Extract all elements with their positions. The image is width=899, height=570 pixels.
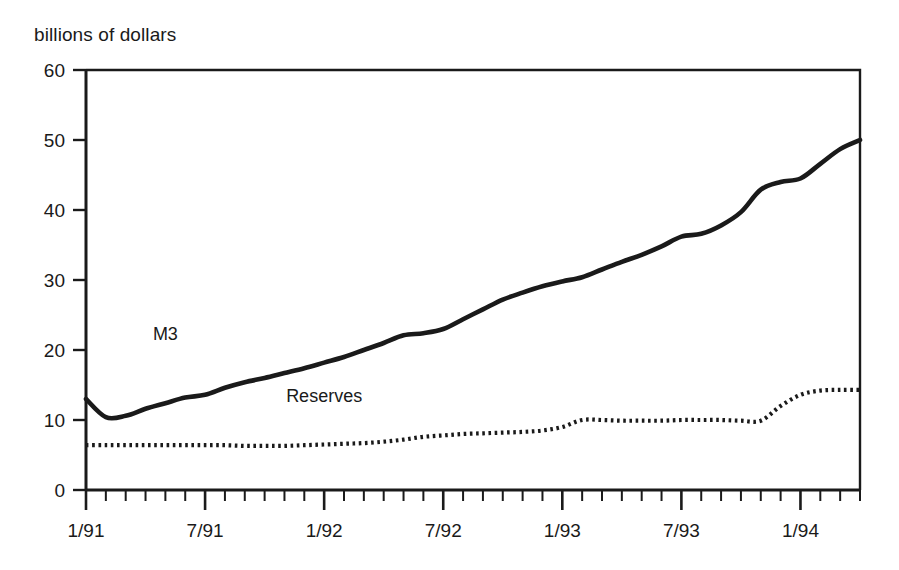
y-tick-label: 20 <box>44 340 65 361</box>
y-tick-label: 50 <box>44 130 65 151</box>
y-axis-ticks: 0102030405060 <box>44 60 86 501</box>
y-tick-label: 10 <box>44 410 65 431</box>
x-tick-label: 1/94 <box>782 520 819 541</box>
y-tick-label: 60 <box>44 60 65 81</box>
y-tick-label: 30 <box>44 270 65 291</box>
chart-container: billions of dollars 0102030405060 1/917/… <box>0 0 899 570</box>
y-tick-label: 0 <box>54 480 65 501</box>
data-series <box>86 140 860 446</box>
x-tick-label: 1/93 <box>544 520 581 541</box>
x-tick-label: 1/92 <box>306 520 343 541</box>
series-line-reserves <box>86 390 860 446</box>
line-chart-plot: 0102030405060 1/917/911/927/921/937/931/… <box>0 0 899 570</box>
series-line-m3 <box>86 140 860 418</box>
series-annotations: M3Reserves <box>153 324 362 406</box>
series-label-reserves: Reserves <box>286 386 362 406</box>
series-label-m3: M3 <box>153 324 178 344</box>
y-tick-label: 40 <box>44 200 65 221</box>
x-tick-label: 7/91 <box>187 520 224 541</box>
x-axis-ticks: 1/917/911/927/921/937/931/94 <box>68 490 860 541</box>
x-tick-label: 1/91 <box>68 520 105 541</box>
axis-frame <box>86 70 860 490</box>
x-tick-label: 7/92 <box>425 520 462 541</box>
x-tick-label: 7/93 <box>663 520 700 541</box>
